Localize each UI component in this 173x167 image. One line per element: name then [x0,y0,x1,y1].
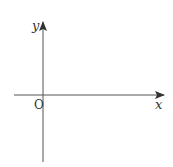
coordinate-plane: y O x [0,0,173,167]
y-axis-label: y [31,18,40,33]
x-axis-label: x [155,97,163,112]
origin-label: O [34,98,44,112]
